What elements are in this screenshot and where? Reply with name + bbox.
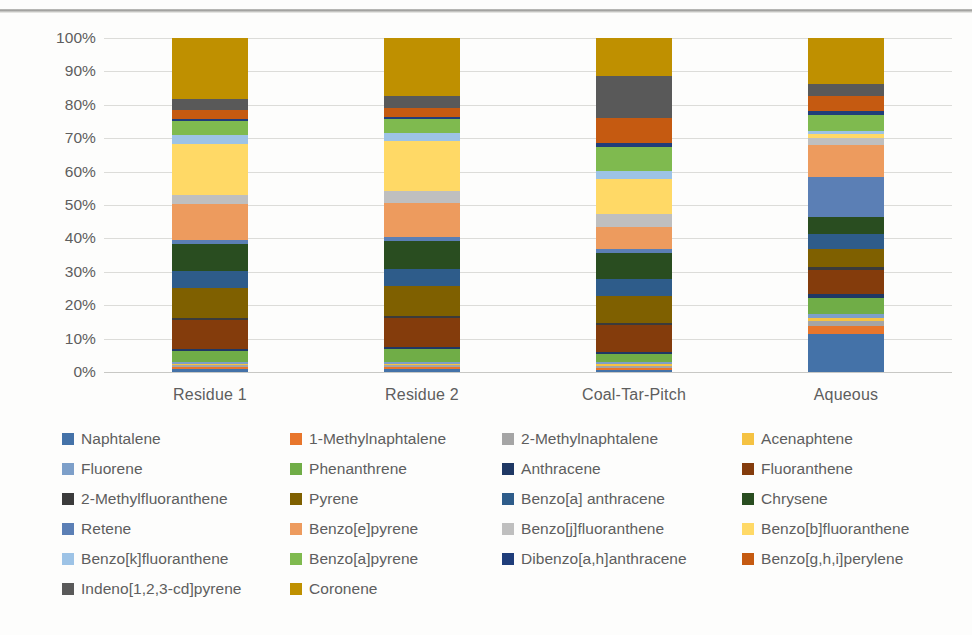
bar-segment[interactable] bbox=[596, 117, 672, 143]
legend-row: Benzo[k]fluorantheneBenzo[a]pyreneDibenz… bbox=[62, 544, 962, 574]
bar-segment[interactable] bbox=[172, 195, 248, 204]
bar-segment[interactable] bbox=[596, 170, 672, 179]
bar-segment[interactable] bbox=[596, 213, 672, 227]
legend-item[interactable]: Naphtalene bbox=[62, 424, 161, 454]
legend-item[interactable]: Coronene bbox=[290, 574, 377, 604]
bar-segment[interactable] bbox=[596, 295, 672, 323]
legend-label: Benzo[a]pyrene bbox=[309, 550, 418, 568]
bar-segment[interactable] bbox=[808, 333, 884, 372]
bar-segment[interactable] bbox=[172, 120, 248, 135]
bar-segment[interactable] bbox=[384, 132, 460, 141]
bar-segment[interactable] bbox=[384, 119, 460, 133]
legend-row: ReteneBenzo[e]pyreneBenzo[j]fluoranthene… bbox=[62, 514, 962, 544]
legend-swatch-icon bbox=[742, 433, 754, 445]
bar-segment[interactable] bbox=[596, 253, 672, 279]
bar-segment[interactable] bbox=[808, 320, 884, 326]
legend-item[interactable]: Retene bbox=[62, 514, 131, 544]
bar-segment[interactable] bbox=[596, 325, 672, 352]
y-axis-tick: 0% bbox=[18, 364, 96, 379]
bar-segment[interactable] bbox=[596, 278, 672, 296]
bar-segment[interactable] bbox=[384, 95, 460, 108]
bar-segment[interactable] bbox=[384, 237, 460, 242]
bar-segment[interactable] bbox=[172, 319, 248, 348]
stacked-bar[interactable] bbox=[384, 38, 460, 372]
bar-segment[interactable] bbox=[808, 96, 884, 111]
bar-segment[interactable] bbox=[384, 202, 460, 237]
bar-segment[interactable] bbox=[808, 234, 884, 249]
x-axis-label: Coal-Tar-Pitch bbox=[528, 386, 740, 404]
bar-segment[interactable] bbox=[172, 98, 248, 110]
legend-item[interactable]: Benzo[e]pyrene bbox=[290, 514, 418, 544]
legend-item[interactable]: Benzo[a] anthracene bbox=[502, 484, 665, 514]
legend-item[interactable]: Phenanthrene bbox=[290, 454, 407, 484]
bar-segment[interactable] bbox=[596, 142, 672, 147]
legend-item[interactable]: Benzo[g,h,i]perylene bbox=[742, 544, 903, 574]
bar-segment[interactable] bbox=[596, 147, 672, 171]
legend-item[interactable]: Benzo[k]fluoranthene bbox=[62, 544, 229, 574]
bar-segment[interactable] bbox=[172, 203, 248, 240]
legend-item[interactable]: 2-Methylnaphtalene bbox=[502, 424, 658, 454]
bar-segment[interactable] bbox=[808, 133, 884, 138]
bar-segment[interactable] bbox=[808, 248, 884, 267]
bar-segment[interactable] bbox=[808, 269, 884, 294]
legend-item[interactable]: Chrysene bbox=[742, 484, 828, 514]
bar-segment[interactable] bbox=[808, 297, 884, 314]
bar-segment[interactable] bbox=[172, 38, 248, 99]
bar-segment[interactable] bbox=[808, 110, 884, 115]
legend-row: FluorenePhenanthreneAnthraceneFluoranthe… bbox=[62, 454, 962, 484]
bar-segment[interactable] bbox=[384, 107, 460, 117]
bar-segment[interactable] bbox=[808, 176, 884, 217]
legend-item[interactable]: 1-Methylnaphtalene bbox=[290, 424, 446, 454]
legend-label: Benzo[e]pyrene bbox=[309, 520, 418, 538]
bar-segment[interactable] bbox=[596, 179, 672, 214]
bar-segment[interactable] bbox=[384, 286, 460, 316]
bar-segment[interactable] bbox=[384, 268, 460, 286]
bar-segment[interactable] bbox=[596, 38, 672, 76]
legend-swatch-icon bbox=[502, 553, 514, 565]
bar-segment[interactable] bbox=[596, 75, 672, 117]
bar-segment[interactable] bbox=[172, 243, 248, 270]
legend-swatch-icon bbox=[290, 523, 302, 535]
bar-segment[interactable] bbox=[384, 140, 460, 191]
bar-segment[interactable] bbox=[172, 287, 248, 317]
bar-segment[interactable] bbox=[808, 325, 884, 334]
legend-swatch-icon bbox=[742, 523, 754, 535]
bar-segment[interactable] bbox=[384, 241, 460, 269]
bar-segment[interactable] bbox=[596, 226, 672, 249]
bar-segment[interactable] bbox=[808, 145, 884, 177]
stacked-bar[interactable] bbox=[172, 38, 248, 372]
legend-swatch-icon bbox=[290, 433, 302, 445]
bar-segment[interactable] bbox=[808, 217, 884, 235]
plot-area: 100%90%80%70%60%50%40%30%20%10%0% Residu… bbox=[0, 22, 972, 390]
bar-segment[interactable] bbox=[384, 38, 460, 96]
legend-item[interactable]: Indeno[1,2,3-cd]pyrene bbox=[62, 574, 242, 604]
legend-item[interactable]: Anthracene bbox=[502, 454, 601, 484]
legend-item[interactable]: Acenaphtene bbox=[742, 424, 853, 454]
bar-segment[interactable] bbox=[172, 350, 248, 362]
legend-item[interactable]: Benzo[a]pyrene bbox=[290, 544, 418, 574]
bar-segment[interactable] bbox=[808, 83, 884, 96]
bar-segment[interactable] bbox=[172, 109, 248, 118]
bar-slot bbox=[740, 38, 952, 372]
bar-segment[interactable] bbox=[384, 348, 460, 362]
legend-item[interactable]: Dibenzo[a,h]anthracene bbox=[502, 544, 687, 574]
bar-segment[interactable] bbox=[808, 313, 884, 318]
bar-segment[interactable] bbox=[384, 190, 460, 203]
stacked-bar[interactable] bbox=[808, 38, 884, 372]
bar-segment[interactable] bbox=[172, 134, 248, 143]
bar-segment[interactable] bbox=[596, 353, 672, 362]
bar-segment[interactable] bbox=[808, 114, 884, 130]
legend-item[interactable]: Fluoranthene bbox=[742, 454, 853, 484]
legend-item[interactable]: Benzo[b]fluoranthene bbox=[742, 514, 909, 544]
bar-segment[interactable] bbox=[172, 270, 248, 288]
legend-item[interactable]: Pyrene bbox=[290, 484, 358, 514]
x-axis-label: Aqueous bbox=[740, 386, 952, 404]
legend-item[interactable]: 2-Methylfluoranthene bbox=[62, 484, 228, 514]
stacked-bar[interactable] bbox=[596, 38, 672, 372]
bar-segment[interactable] bbox=[808, 38, 884, 84]
bar-segment[interactable] bbox=[384, 317, 460, 346]
bar-segment[interactable] bbox=[172, 143, 248, 195]
legend-item[interactable]: Fluorene bbox=[62, 454, 143, 484]
legend-item[interactable]: Benzo[j]fluoranthene bbox=[502, 514, 664, 544]
bar-segment[interactable] bbox=[808, 137, 884, 145]
